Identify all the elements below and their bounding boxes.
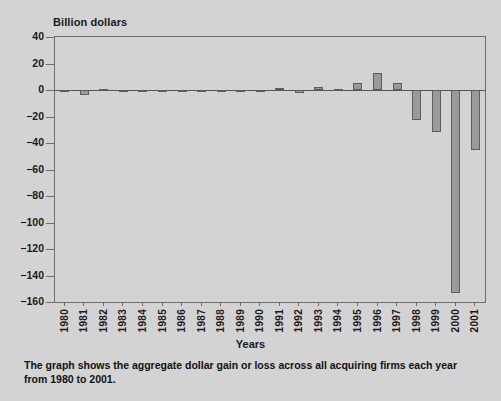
y-axis-tick-label: 0 xyxy=(0,84,44,95)
bar xyxy=(451,90,460,293)
bar xyxy=(138,90,147,92)
x-axis-tick-label: 2001 xyxy=(469,309,480,332)
x-axis-tick xyxy=(220,302,221,306)
x-axis-tick xyxy=(122,302,123,306)
bar xyxy=(80,90,89,95)
x-axis-tick xyxy=(435,302,436,306)
x-axis-tick xyxy=(318,302,319,306)
y-axis-tick-label: −140 xyxy=(0,270,44,281)
x-axis-tick-label: 1986 xyxy=(176,309,187,332)
y-axis-tick-label: −80 xyxy=(0,190,44,201)
x-axis-tick xyxy=(103,302,104,306)
y-axis-tick-label: −20 xyxy=(0,111,44,122)
bar xyxy=(99,89,108,91)
bar xyxy=(432,90,441,132)
y-axis-tick xyxy=(46,90,54,91)
y-axis-tick xyxy=(46,64,54,65)
x-axis-tick xyxy=(455,302,456,306)
x-axis-tick xyxy=(201,302,202,306)
bar xyxy=(217,90,226,92)
x-axis-tick-label: 1992 xyxy=(293,309,304,332)
x-axis-tick xyxy=(162,302,163,306)
y-axis-tick-label: 20 xyxy=(0,58,44,69)
y-axis-tick xyxy=(46,37,54,38)
y-axis-tick-label: 40 xyxy=(0,31,44,42)
x-axis-tick-label: 1999 xyxy=(430,309,441,332)
y-axis-tick xyxy=(46,170,54,171)
x-axis-tick-label: 1995 xyxy=(352,309,363,332)
x-axis-tick-label: 1998 xyxy=(411,309,422,332)
x-axis-tick xyxy=(64,302,65,306)
y-axis-tick xyxy=(46,143,54,144)
y-axis-title: Billion dollars xyxy=(53,16,127,28)
x-axis-tick-label: 1985 xyxy=(157,309,168,332)
x-axis-tick-label: 1994 xyxy=(332,309,343,332)
bar xyxy=(412,90,421,120)
x-axis-tick-label: 1996 xyxy=(372,309,383,332)
y-axis-tick xyxy=(46,276,54,277)
x-axis-tick-label: 1993 xyxy=(313,309,324,332)
bar xyxy=(119,90,128,92)
x-axis-tick-label: 1983 xyxy=(117,309,128,332)
y-axis-tick xyxy=(46,223,54,224)
x-axis-tick xyxy=(298,302,299,306)
x-axis-tick-label: 1997 xyxy=(391,309,402,332)
bar xyxy=(60,90,69,92)
bar xyxy=(197,90,206,92)
bar xyxy=(178,90,187,92)
figure-caption: The graph shows the aggregate dollar gai… xyxy=(24,358,464,386)
y-axis-tick xyxy=(46,249,54,250)
bar xyxy=(353,83,362,90)
x-axis-tick-label: 2000 xyxy=(450,309,461,332)
x-axis-tick-label: 1981 xyxy=(78,309,89,332)
x-axis-tick xyxy=(259,302,260,306)
x-axis-tick xyxy=(396,302,397,306)
x-axis-tick xyxy=(240,302,241,306)
x-axis-tick xyxy=(377,302,378,306)
bar xyxy=(275,88,284,90)
x-axis-tick-label: 1980 xyxy=(59,309,70,332)
y-axis-tick xyxy=(46,302,54,303)
x-axis-tick-label: 1982 xyxy=(98,309,109,332)
bar xyxy=(471,90,480,150)
y-axis-tick-label: −100 xyxy=(0,217,44,228)
x-axis-tick-label: 1984 xyxy=(137,309,148,332)
y-axis-tick xyxy=(46,117,54,118)
bar xyxy=(373,73,382,90)
bar xyxy=(334,89,343,91)
bar xyxy=(158,90,167,92)
bar xyxy=(314,87,323,90)
x-axis-tick-label: 1987 xyxy=(196,309,207,332)
x-axis-tick xyxy=(337,302,338,306)
y-axis-tick-label: −160 xyxy=(0,296,44,307)
bar xyxy=(295,90,304,93)
x-axis-tick-label: 1991 xyxy=(274,309,285,332)
y-axis-tick-label: −120 xyxy=(0,243,44,254)
plot-area xyxy=(54,36,486,303)
x-axis-tick xyxy=(142,302,143,306)
x-axis-tick xyxy=(83,302,84,306)
y-axis-tick-label: −40 xyxy=(0,137,44,148)
x-axis-tick xyxy=(357,302,358,306)
y-axis-tick-label: −60 xyxy=(0,164,44,175)
x-axis-tick xyxy=(416,302,417,306)
x-axis-tick-label: 1988 xyxy=(215,309,226,332)
x-axis-tick-label: 1989 xyxy=(235,309,246,332)
figure-panel: Billion dollars 40200−20−40−60−80−100−12… xyxy=(0,0,501,401)
bar xyxy=(236,90,245,92)
bar xyxy=(393,83,402,90)
x-axis-tick-label: 1990 xyxy=(254,309,265,332)
x-axis-tick xyxy=(279,302,280,306)
x-axis-title: Years xyxy=(0,338,501,350)
bar xyxy=(256,90,265,92)
bar-series xyxy=(55,37,485,302)
x-axis-tick xyxy=(474,302,475,306)
y-axis-tick xyxy=(46,196,54,197)
x-axis-tick xyxy=(181,302,182,306)
